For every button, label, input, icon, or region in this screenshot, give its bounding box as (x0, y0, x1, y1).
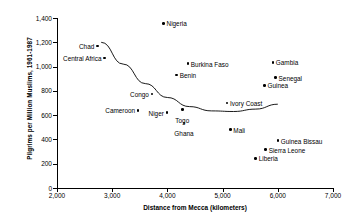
data-point-label: Gambia (276, 59, 298, 66)
data-point-label: Liberia (259, 155, 278, 162)
data-point-label: Ivory Coast (230, 100, 262, 107)
data-point-label: Congo (130, 90, 149, 97)
data-point-label: Guinea (268, 82, 289, 89)
data-point-marker (187, 62, 190, 65)
chart-container: 02004006008001,0001,2001,400 2,0003,0004… (0, 0, 346, 219)
data-point-marker (263, 84, 266, 87)
data-point-label: Chad (79, 42, 94, 49)
data-point-label: Senegal (279, 74, 302, 81)
data-point-label: Guinea Bissau (281, 137, 323, 144)
data-point-label: Nigeria (167, 20, 187, 27)
data-point-marker (272, 61, 275, 64)
data-point-marker (264, 148, 267, 151)
data-point-label: Cameroon (105, 107, 135, 114)
data-point-label: Sierra Leone (269, 146, 306, 153)
data-point-label: Central Africa (63, 55, 101, 62)
data-point-marker (96, 45, 99, 48)
data-point-label: Niger (149, 109, 164, 116)
data-point-marker (166, 111, 169, 114)
data-point-label: Benin (180, 72, 196, 79)
data-point-marker (277, 139, 280, 142)
data-point-marker (274, 76, 277, 79)
data-point-label: Burkina Faso (191, 60, 229, 67)
trendline (0, 0, 346, 219)
data-point-marker (181, 108, 184, 111)
data-point-marker (229, 128, 232, 131)
data-point-label: Mali (233, 126, 245, 133)
data-point-marker (162, 22, 165, 25)
data-point-label: Ghana (174, 130, 193, 137)
data-point-marker (254, 157, 257, 160)
